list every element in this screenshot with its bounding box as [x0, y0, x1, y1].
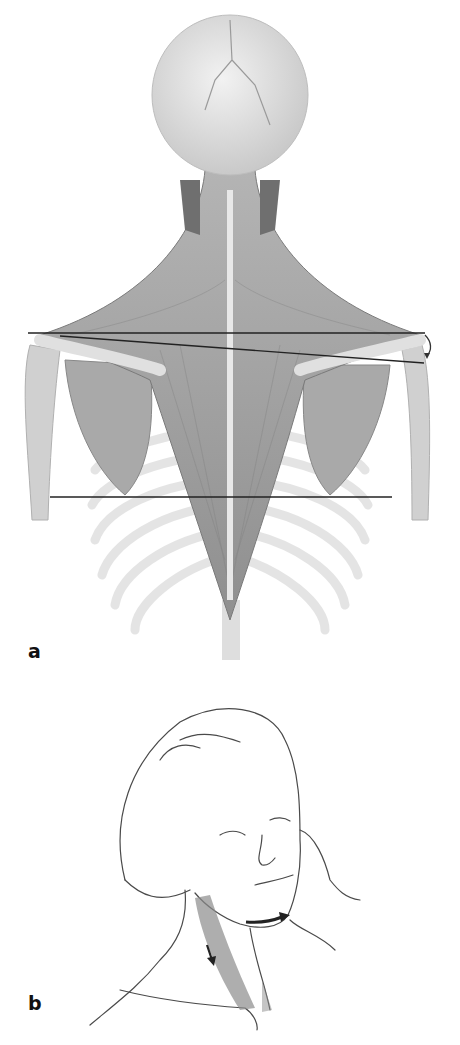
sternocleidomastoid-shading	[195, 895, 255, 1010]
left-humerus	[25, 345, 60, 520]
head-rotation-test-drawing	[0, 690, 460, 1045]
panel-label-b: b	[28, 992, 42, 1014]
right-humerus	[402, 345, 430, 520]
left-scapula	[65, 360, 152, 495]
figure-panel-a: a	[0, 0, 460, 680]
panel-label-a: a	[28, 640, 41, 662]
trapezius-anatomy-illustration	[0, 0, 460, 680]
right-scapula	[303, 365, 390, 495]
figure-panel-b: b	[0, 690, 460, 1045]
skull	[152, 15, 308, 175]
